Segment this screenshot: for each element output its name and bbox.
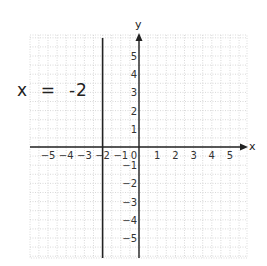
x-tick-label: −3 — [77, 150, 92, 161]
y-axis-label: y — [135, 18, 142, 31]
x-tick-label: −2 — [95, 150, 110, 161]
x-tick-label: 5 — [227, 150, 233, 161]
equation-label: x = -2 — [17, 80, 88, 100]
x-tick-label: −4 — [59, 150, 74, 161]
x-tick-label: −5 — [41, 150, 56, 161]
x-tick-label: 2 — [172, 150, 178, 161]
y-tick-label: −5 — [122, 233, 137, 244]
y-tick-label: −2 — [122, 178, 137, 189]
coordinate-plane: −5−4−3−2−101234554321−1−2−3−4−5 — [0, 0, 267, 266]
y-tick-label: −1 — [122, 160, 137, 171]
y-tick-label: 2 — [131, 106, 137, 117]
y-tick-label: 3 — [131, 87, 137, 98]
y-tick-label: −3 — [122, 197, 137, 208]
y-tick-label: 5 — [131, 51, 137, 62]
x-axis-label: x — [249, 140, 256, 153]
x-axis-arrow-icon — [240, 144, 248, 151]
x-tick-label: 1 — [154, 150, 160, 161]
y-tick-label: −4 — [122, 215, 137, 226]
x-tick-label: 3 — [190, 150, 196, 161]
y-tick-label: 4 — [131, 69, 137, 80]
y-axis-arrow-icon — [136, 33, 143, 41]
y-tick-label: 1 — [131, 124, 137, 135]
x-tick-label: 4 — [209, 150, 215, 161]
